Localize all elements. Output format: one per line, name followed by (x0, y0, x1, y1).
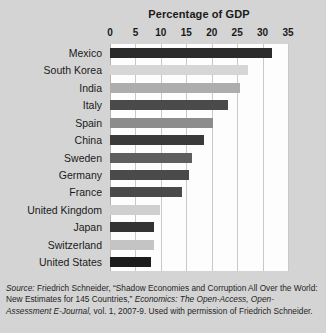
source-journal-name-cont: Assessment E-Journal, (6, 306, 91, 316)
bar (110, 240, 154, 250)
category-label: Japan (0, 219, 106, 236)
source-citation: Source: Friedrich Schneider, “Shadow Eco… (6, 283, 320, 317)
category-label: China (0, 131, 106, 148)
source-label: Source: (6, 283, 35, 293)
x-tick-label: 25 (232, 27, 243, 38)
bar-row (110, 184, 288, 201)
plot-area (110, 44, 288, 271)
x-axis-tick-labels: 05101520253035 (110, 27, 288, 41)
category-label: India (0, 79, 106, 96)
source-journal-name: Economics: The Open-Access, Open- (135, 294, 274, 304)
bar-row (110, 201, 288, 218)
bar-row (110, 131, 288, 148)
category-label: South Korea (0, 61, 106, 78)
x-tick-label: 5 (133, 27, 139, 38)
category-labels-axis: MexicoSouth KoreaIndiaItalySpainChinaSwe… (0, 44, 106, 271)
category-label: United States (0, 254, 106, 271)
bar (110, 257, 151, 267)
gridline (288, 44, 289, 271)
bar (110, 222, 154, 232)
bar-row (110, 96, 288, 113)
bar (110, 187, 182, 197)
x-tick-label: 30 (257, 27, 268, 38)
bar (110, 205, 160, 215)
bar-row (110, 44, 288, 61)
category-label: United Kingdom (0, 201, 106, 218)
bar-row (110, 149, 288, 166)
bar-row (110, 219, 288, 236)
x-tick-label: 0 (107, 27, 113, 38)
chart-title: Percentage of GDP (110, 8, 288, 20)
bar-row (110, 114, 288, 131)
source-line3: vol. 1, 2007-9. Used with permission of … (91, 306, 312, 316)
x-tick-label: 20 (206, 27, 217, 38)
bar (110, 118, 213, 128)
bar (110, 65, 248, 75)
bar (110, 153, 192, 163)
x-tick-label: 15 (181, 27, 192, 38)
bar (110, 100, 228, 110)
bars-layer (110, 44, 288, 271)
category-label: Spain (0, 114, 106, 131)
bar (110, 135, 204, 145)
bar-row (110, 79, 288, 96)
x-tick-label: 35 (282, 27, 293, 38)
category-label: Germany (0, 166, 106, 183)
category-label: France (0, 184, 106, 201)
bar (110, 170, 189, 180)
gdp-shadow-economy-chart-figure: Percentage of GDP 05101520253035 MexicoS… (0, 0, 326, 333)
bar-row (110, 236, 288, 253)
category-label: Mexico (0, 44, 106, 61)
category-label: Italy (0, 96, 106, 113)
bar-row (110, 166, 288, 183)
source-line1: Friedrich Schneider, “Shadow Economies a… (35, 283, 292, 293)
category-label: Sweden (0, 149, 106, 166)
category-label: Switzerland (0, 236, 106, 253)
x-tick-label: 10 (155, 27, 166, 38)
bar-row (110, 254, 288, 271)
bar (110, 83, 240, 93)
bar (110, 48, 272, 58)
bar-row (110, 61, 288, 78)
